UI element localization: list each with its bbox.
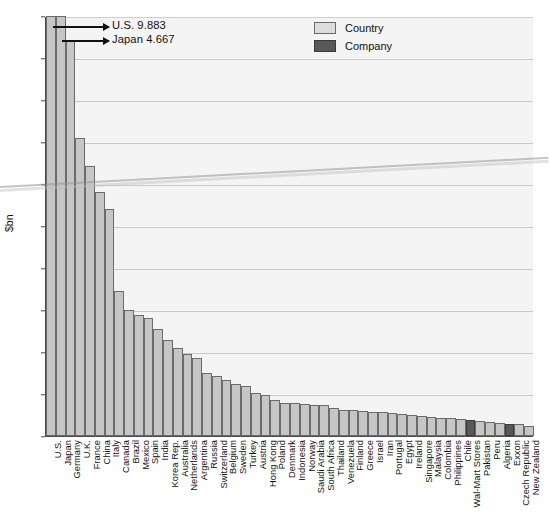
bar-russia (202, 373, 212, 436)
x-axis-label: South Africa (326, 440, 336, 491)
legend: Country Company (314, 22, 392, 58)
bar-thailand (329, 408, 339, 436)
bars-layer (46, 17, 533, 436)
bar-portugal (388, 413, 398, 436)
x-axis-label: Israel (375, 440, 385, 463)
bar-iran (378, 412, 388, 436)
bar-south-africa (319, 405, 329, 436)
bar-canada (114, 291, 124, 436)
bar-chile (456, 419, 466, 436)
bar-norway (300, 404, 310, 436)
bar-pakistan (475, 421, 485, 436)
x-axis-label: Malaysia (433, 440, 443, 477)
bar-netherlands (183, 354, 193, 436)
x-axis-labels: U.S.JapanGermanyU.K.FranceChinaItalyCana… (45, 440, 533, 520)
bar-turkey (241, 386, 251, 436)
x-axis-label: Ireland (414, 440, 424, 469)
x-axis-label: Belgium (228, 440, 238, 474)
bar-argentina (192, 358, 202, 436)
bar-indonesia (290, 403, 300, 436)
x-axis-label: Czech Republic (521, 440, 531, 506)
bar-chart: $bn 02004006008001.0001.2001.4001.6001.8… (0, 0, 549, 520)
bar-australia (173, 348, 183, 436)
x-axis-label: New Zealand (531, 440, 541, 495)
bar-finland (349, 410, 359, 436)
x-axis-label: Pakistan (482, 440, 492, 476)
x-axis-label: Sweden (238, 440, 248, 474)
bar-spain (144, 318, 154, 436)
legend-item-country: Country (314, 22, 392, 34)
bar-u-s (46, 16, 56, 436)
bar-france (85, 166, 95, 436)
bar-u-k (75, 138, 85, 436)
x-axis-label: U.S. (53, 440, 63, 458)
callout-label-japan: Japan 4.667 (112, 33, 175, 45)
bar-colombia (436, 418, 446, 436)
x-axis-label: Peru (492, 440, 502, 460)
bar-philippines (446, 418, 456, 436)
bar-egypt (397, 414, 407, 436)
bar-algeria (495, 423, 505, 436)
x-axis-label: Germany (72, 440, 82, 479)
x-axis-label: Italy (111, 440, 121, 457)
bar-brazil (124, 310, 134, 436)
bar-mexico (134, 315, 144, 436)
bar-poland (270, 400, 280, 436)
x-axis-label: Saudi Arabia (316, 440, 326, 493)
bar-ireland (407, 415, 417, 436)
bar-austria (251, 393, 261, 436)
bar-germany (66, 41, 76, 436)
bar-malaysia (427, 417, 437, 436)
x-axis-label: Russia (209, 440, 219, 469)
bar-china (95, 192, 105, 436)
bar-czech-republic (514, 424, 524, 436)
bar-sweden (231, 384, 241, 437)
legend-label-country: Country (345, 22, 384, 34)
x-axis-label: Spain (150, 440, 160, 464)
y-axis-title: $bn (3, 214, 15, 232)
bar-new-zealand (524, 426, 534, 437)
x-axis-label: Greece (365, 440, 375, 471)
x-axis-label: Indonesia (297, 440, 307, 481)
x-axis-label: Algeria (502, 440, 512, 469)
x-axis-label: Turkey (248, 440, 258, 468)
x-axis-label: Argentina (199, 440, 209, 480)
bar-japan (56, 16, 66, 436)
x-axis-label: Thailand (336, 440, 346, 476)
bar-wal-mart-stores (466, 420, 476, 436)
bar-venezuela (339, 410, 349, 436)
bar-india (153, 329, 163, 436)
bar-peru (485, 422, 495, 436)
bar-hong-kong (261, 395, 271, 436)
bar-denmark (280, 403, 290, 436)
x-axis-label: Denmark (287, 440, 297, 478)
callout-arrow-icon (62, 40, 109, 42)
x-axis-label: India (160, 440, 170, 460)
x-axis-label: Canada (121, 440, 131, 473)
x-axis-label: Austria (258, 440, 268, 469)
x-axis-label: U.K. (82, 440, 92, 458)
x-axis-label: Egypt (404, 440, 414, 464)
x-axis-label: Finland (355, 440, 365, 471)
bar-belgium (222, 380, 232, 436)
x-axis-label: Wal-Mart Stores (472, 440, 482, 508)
bar-exxon (505, 424, 515, 436)
bar-saudi-arabia (310, 405, 320, 437)
x-axis-label: Colombia (443, 440, 453, 480)
x-axis-label: Philippines (453, 440, 463, 486)
legend-item-company: Company (314, 40, 392, 52)
x-axis-label: Korea Rep. (170, 440, 180, 488)
bar-greece (358, 411, 368, 436)
x-axis-label: Brazil (131, 440, 141, 464)
callout-arrow-icon (53, 26, 109, 28)
bar-israel (368, 412, 378, 436)
bar-korea-rep (163, 340, 173, 436)
plot-area (45, 17, 533, 437)
x-axis-label: Netherlands (189, 440, 199, 491)
bar-switzerland (212, 376, 222, 436)
x-axis-label: France (92, 440, 102, 469)
x-axis-label: Portugal (394, 440, 404, 475)
legend-label-company: Company (345, 40, 392, 52)
legend-swatch-company-icon (314, 40, 336, 52)
x-axis-label: Poland (277, 440, 287, 469)
